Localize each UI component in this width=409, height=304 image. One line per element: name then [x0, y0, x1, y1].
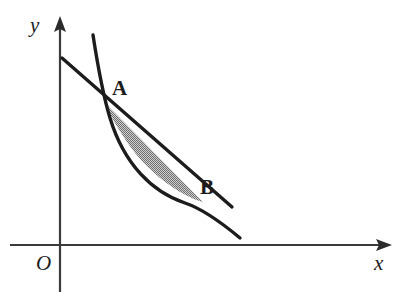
function-curve — [93, 35, 240, 238]
x-axis-label: x — [373, 251, 384, 275]
point-label-a: A — [112, 76, 128, 100]
point-label-b: B — [200, 175, 214, 199]
y-axis-label: y — [28, 13, 40, 37]
figure-container: y x O A B — [0, 0, 409, 304]
geometry-figure-svg: y x O A B — [0, 0, 409, 304]
axes-group — [10, 16, 392, 292]
origin-label: O — [36, 251, 51, 275]
